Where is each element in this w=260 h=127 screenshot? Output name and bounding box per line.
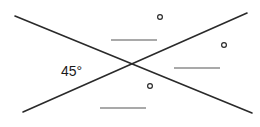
degree-symbol-bottom-icon: [148, 84, 153, 89]
given-angle-label: 45°: [61, 64, 82, 78]
intersecting-line-a: [15, 16, 252, 113]
angle-diagram: [0, 0, 260, 127]
degree-symbol-top-icon: [158, 15, 163, 20]
degree-symbol-right-icon: [222, 43, 227, 48]
